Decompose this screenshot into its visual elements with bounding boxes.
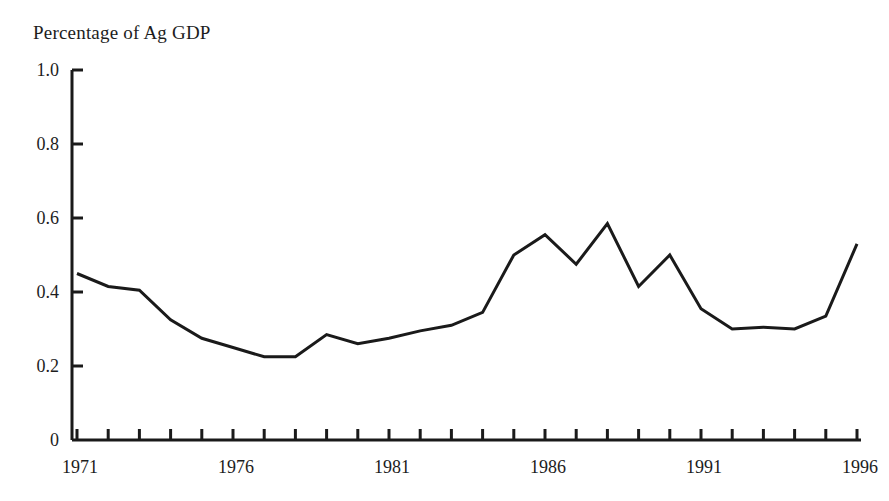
y-axis-tick-label: 0.2: [37, 356, 60, 376]
y-axis-tick-label: 0.8: [37, 134, 60, 154]
x-axis-tick-label: 1986: [530, 457, 566, 477]
x-axis-tick-label: 1981: [374, 457, 410, 477]
x-axis-tick-label: 1996: [842, 457, 878, 477]
chart-geometry: 00.20.40.60.81.0197119761981198619911996: [37, 60, 879, 477]
data-series-line: [77, 224, 857, 357]
y-axis-tick-label: 1.0: [37, 60, 60, 80]
x-axis-tick-label: 1976: [218, 457, 254, 477]
chart-figure: Percentage of Ag GDP 00.20.40.60.81.0197…: [0, 0, 889, 501]
line-chart-plot: 00.20.40.60.81.0197119761981198619911996: [0, 0, 889, 501]
y-axis-tick-label: 0.4: [37, 282, 60, 302]
y-axis-tick-label: 0: [50, 430, 59, 450]
y-axis-tick-label: 0.6: [37, 208, 60, 228]
x-axis-tick-label: 1971: [62, 457, 98, 477]
x-axis-tick-label: 1991: [686, 457, 722, 477]
